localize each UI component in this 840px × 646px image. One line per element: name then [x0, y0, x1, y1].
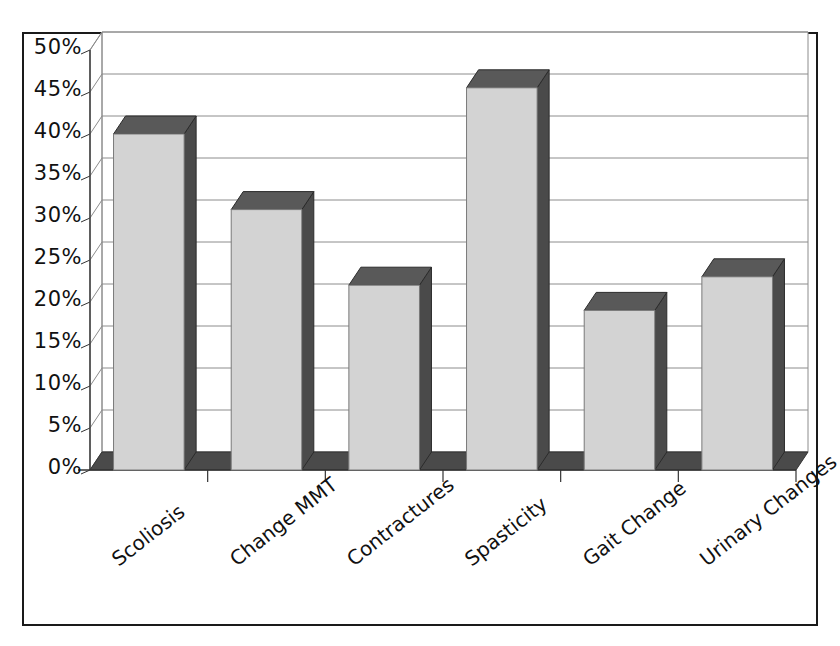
bar-column — [114, 116, 197, 470]
y-axis-tick — [81, 386, 90, 390]
bar-front-face — [114, 134, 185, 470]
y-axis-tick — [81, 218, 90, 222]
plot-floor — [90, 452, 808, 470]
bar-side-face — [772, 259, 784, 470]
y-axis-tick — [81, 302, 90, 306]
bar-front-face — [231, 210, 302, 470]
bar-column — [702, 259, 785, 470]
y-axis-tick-labels: 0%5%10%15%20%25%30%35%40%45%50% — [10, 0, 82, 646]
y-axis-tick-label: 0% — [18, 455, 82, 479]
gridline-depth-connector — [90, 74, 102, 92]
y-axis-tick — [81, 134, 90, 138]
y-axis-tick-label: 5% — [18, 413, 82, 437]
gridline-depth-connector — [90, 242, 102, 260]
gridline-depth-connector — [90, 326, 102, 344]
bar-front-face — [349, 285, 420, 470]
gridline-depth-connector — [90, 284, 102, 302]
y-axis-tick — [81, 428, 90, 432]
bar-side-face — [302, 192, 314, 470]
bar-column — [231, 192, 314, 470]
bar-top-face — [231, 192, 314, 210]
y-axis-tick — [81, 344, 90, 348]
y-axis-tick-label: 30% — [18, 203, 82, 227]
chart-root: 0%5%10%15%20%25%30%35%40%45%50% Scoliosi… — [0, 0, 840, 646]
gridline-depth-connector — [90, 158, 102, 176]
y-axis-tick — [81, 92, 90, 96]
y-axis-tick-label: 15% — [18, 329, 82, 353]
gridline-depth-connector — [90, 368, 102, 386]
plot-area — [0, 0, 840, 646]
bar-front-face — [467, 88, 538, 470]
bar-column — [467, 70, 550, 470]
bar-side-face — [537, 70, 549, 470]
bar-column — [349, 267, 432, 470]
gridline-depth-connector — [90, 116, 102, 134]
y-axis-tick-label: 45% — [18, 77, 82, 101]
y-axis-tick-label: 40% — [18, 119, 82, 143]
bar-side-face — [419, 267, 431, 470]
bar-column — [584, 292, 667, 470]
y-axis-tick-label: 25% — [18, 245, 82, 269]
plot-svg — [0, 0, 840, 646]
bar-top-face — [702, 259, 785, 277]
bar-side-face — [184, 116, 196, 470]
bar-side-face — [655, 292, 667, 470]
y-axis-tick-label: 50% — [18, 35, 82, 59]
y-axis-tick-label: 20% — [18, 287, 82, 311]
bar-top-face — [467, 70, 550, 88]
gridline-depth-connector — [90, 200, 102, 218]
y-axis-tick-label: 10% — [18, 371, 82, 395]
bar-top-face — [584, 292, 667, 310]
bar-top-face — [349, 267, 432, 285]
y-axis-tick — [81, 50, 90, 54]
bar-top-face — [114, 116, 197, 134]
y-axis-tick — [81, 176, 90, 180]
bar-front-face — [702, 277, 773, 470]
gridline-depth-connector — [90, 410, 102, 428]
y-axis-tick — [81, 260, 90, 264]
bar-front-face — [584, 310, 655, 470]
y-axis-tick-label: 35% — [18, 161, 82, 185]
